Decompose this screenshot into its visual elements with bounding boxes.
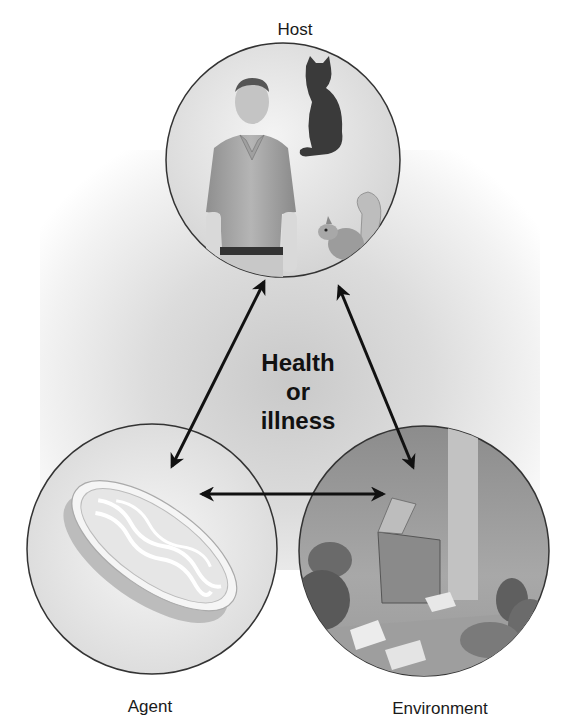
- agent-label: Agent: [110, 697, 190, 717]
- center-line-1: Health: [208, 348, 388, 377]
- center-line-2: or: [208, 377, 388, 406]
- health-or-illness-label: Health or illness: [208, 348, 388, 435]
- agent-circle: [27, 424, 277, 674]
- environment-circle: [294, 420, 560, 690]
- center-line-3: illness: [208, 406, 388, 435]
- environment-label: Environment: [380, 699, 500, 719]
- host-circle: [166, 43, 400, 295]
- host-label: Host: [255, 20, 335, 40]
